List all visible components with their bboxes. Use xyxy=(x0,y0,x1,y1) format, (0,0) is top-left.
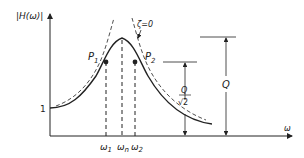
resonance-diagram: |H(ω)| ω 1 P1 P2 ζ=0 ω1 ωn ω2 Q xyxy=(0,0,304,158)
frequency-markers xyxy=(106,40,135,136)
y-axis-label: |H(ω)| xyxy=(16,11,43,21)
tick-omega-1: ω1 xyxy=(100,142,112,154)
tick-omega-n: ωn xyxy=(117,142,129,154)
p1-label: P1 xyxy=(88,51,99,65)
q-sqrt2-denominator: √2 xyxy=(178,98,188,107)
q-sqrt2-numerator: Q xyxy=(181,86,187,95)
dimension-q-sqrt2: Q √2 xyxy=(163,62,197,135)
zeta-label: ζ=0 xyxy=(136,20,153,29)
y-tick-label-1: 1 xyxy=(40,104,46,114)
point-p1 xyxy=(104,60,109,65)
q-label: Q xyxy=(222,79,230,90)
dimension-q: Q xyxy=(200,37,236,135)
tick-omega-2: ω2 xyxy=(131,142,144,154)
zeta-pointer xyxy=(138,30,141,38)
point-p2 xyxy=(133,60,138,65)
x-axis-label: ω xyxy=(284,124,291,133)
